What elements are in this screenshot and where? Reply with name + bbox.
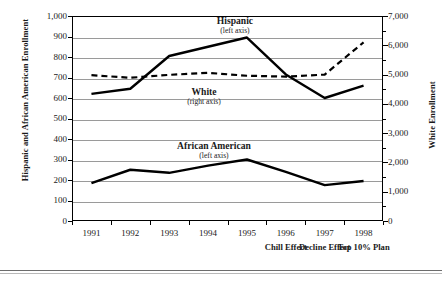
enrollment-line-chart: Hispanic and African American Enrollment…	[0, 0, 442, 281]
y-right-tick-label: 2,000	[388, 158, 428, 167]
series-name-hispanic: Hispanic	[183, 15, 287, 26]
x-tick	[383, 221, 384, 225]
y-right-tick	[383, 162, 388, 163]
y-right-tick	[383, 177, 386, 178]
y-right-tick-label: 7,000	[388, 12, 428, 21]
y-right-tick	[383, 104, 388, 105]
series-name-white: White	[152, 86, 256, 97]
y-left-tick-label: 800	[33, 53, 67, 62]
y-left-tick-label: 200	[33, 176, 67, 185]
y-right-tick	[383, 16, 388, 17]
x-tick	[111, 221, 112, 225]
y-right-tick-label: 1,000	[388, 187, 428, 196]
y-left-tick-label: 700	[33, 73, 67, 82]
series-line-african-american	[91, 160, 363, 186]
y-right-tick-label: 5,000	[388, 70, 428, 79]
series-axis-note-hispanic: (left axis)	[183, 26, 287, 35]
y-left-tick-label: 0	[33, 217, 67, 226]
x-tick	[344, 221, 345, 225]
y-right-tick	[383, 133, 388, 134]
y-axis-right-title: White Enrollment	[427, 60, 437, 170]
series-lines	[72, 16, 383, 221]
y-left-tick-label: 400	[33, 135, 67, 144]
y-right-tick	[383, 75, 388, 76]
x-axis-annotation: Top 10% Plan	[335, 242, 393, 253]
y-right-tick	[383, 206, 386, 207]
x-tick	[189, 221, 190, 225]
x-tick	[228, 221, 229, 225]
series-label-african-american: African American (left axis)	[146, 140, 282, 160]
series-label-hispanic: Hispanic (left axis)	[183, 15, 287, 35]
y-right-tick	[383, 31, 386, 32]
y-right-tick-label: 4,000	[388, 99, 428, 108]
series-label-white: White (right axis)	[152, 86, 256, 106]
x-tick	[150, 221, 151, 225]
x-tick-label: 1998	[337, 228, 391, 239]
x-tick	[72, 221, 73, 225]
y-right-tick	[383, 45, 388, 46]
footer-rule-bottom	[0, 273, 442, 274]
y-left-tick-label: 100	[33, 196, 67, 205]
series-name-african-american: African American	[146, 140, 282, 151]
y-right-tick-label: 3,000	[388, 129, 428, 138]
y-right-tick-label: 6,000	[388, 41, 428, 50]
series-axis-note-african-american: (left axis)	[146, 151, 282, 160]
y-right-tick	[383, 119, 386, 120]
y-left-tick-label: 600	[33, 94, 67, 103]
series-axis-note-white: (right axis)	[152, 97, 256, 106]
y-right-tick	[383, 60, 386, 61]
y-right-tick-label: 0	[388, 217, 428, 226]
y-right-tick	[383, 192, 388, 193]
y-left-tick-label: 300	[33, 155, 67, 164]
y-right-tick	[383, 148, 386, 149]
series-line-white	[91, 42, 363, 77]
y-axis-left-title: Hispanic and African American Enrollment	[20, 15, 30, 185]
x-tick	[266, 221, 267, 225]
y-left-tick-label: 900	[33, 32, 67, 41]
footer-rule-top	[0, 270, 442, 271]
y-right-tick	[383, 89, 386, 90]
x-tick	[305, 221, 306, 225]
y-left-tick-label: 1,000	[33, 12, 67, 21]
y-left-tick-label: 500	[33, 114, 67, 123]
